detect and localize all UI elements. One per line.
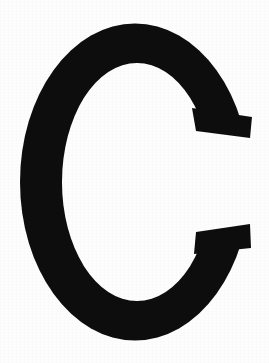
letter-c-image-canvas: Black capital letter C: [0, 0, 269, 363]
letter-c-shape: [0, 0, 269, 363]
letter-c-glyph-svg: [0, 0, 269, 363]
letter-c-fill: [0, 0, 269, 363]
